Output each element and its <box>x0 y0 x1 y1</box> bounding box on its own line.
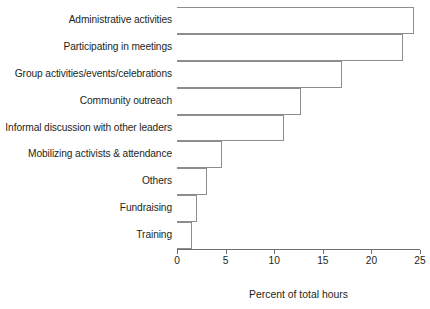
bar <box>177 141 222 168</box>
x-axis-tick <box>226 250 227 254</box>
x-axis-tick-label: 15 <box>317 256 328 266</box>
x-axis-tick <box>420 250 421 254</box>
x-axis-tick-label: 5 <box>223 256 229 266</box>
category-label: Community outreach <box>80 96 172 106</box>
bar <box>177 195 197 222</box>
bar <box>177 7 414 34</box>
x-axis-tick-label: 10 <box>269 256 280 266</box>
category-label: Fundraising <box>120 203 172 213</box>
x-axis-tick <box>323 250 324 254</box>
plot-area <box>177 7 420 249</box>
bar <box>177 168 207 195</box>
bar <box>177 115 284 142</box>
x-axis-tick <box>274 250 275 254</box>
bar <box>177 61 342 88</box>
category-label: Informal discussion with other leaders <box>5 123 172 133</box>
x-axis-tick-label: 25 <box>414 256 425 266</box>
category-label: Others <box>142 176 172 186</box>
x-axis-title: Percent of total hours <box>177 290 420 300</box>
x-axis-line <box>177 249 420 250</box>
bar-chart: Administrative activitiesParticipating i… <box>0 0 430 309</box>
bar <box>177 34 403 61</box>
bar <box>177 222 192 249</box>
category-label: Group activities/events/celebrations <box>15 69 172 79</box>
category-label: Administrative activities <box>69 15 172 25</box>
x-axis-tick-label: 20 <box>366 256 377 266</box>
bar <box>177 88 301 115</box>
category-label: Participating in meetings <box>64 42 173 52</box>
category-label: Mobilizing activists & attendance <box>28 149 172 159</box>
category-label: Training <box>136 230 172 240</box>
x-axis-tick <box>177 250 178 254</box>
x-axis-tick-label: 0 <box>174 256 180 266</box>
x-axis-tick <box>371 250 372 254</box>
